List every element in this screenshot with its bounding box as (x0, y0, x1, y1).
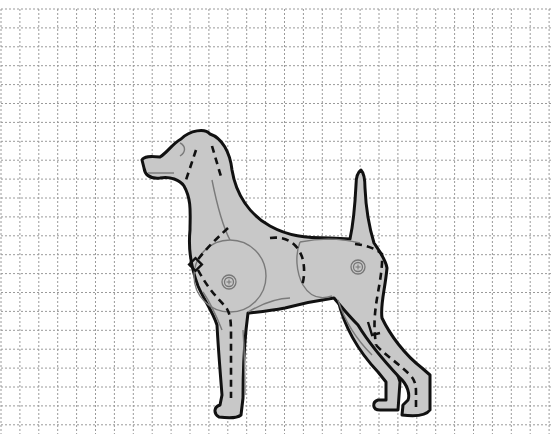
rear-pivot-icon (351, 260, 365, 274)
front-pivot-icon (222, 275, 236, 289)
diagram-canvas: Dog template on grid Side-view dog silho… (0, 0, 552, 434)
dog-diagram (0, 0, 552, 434)
grid-background (1, 9, 552, 434)
